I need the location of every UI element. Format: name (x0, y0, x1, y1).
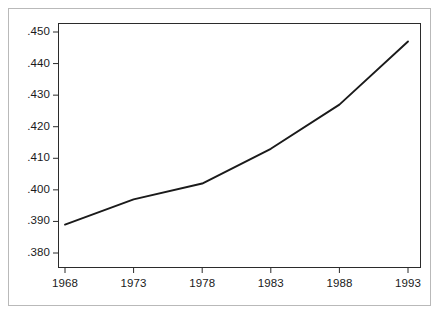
y-axis-tick-marks (53, 32, 58, 253)
x-tick-label: 1988 (316, 278, 362, 290)
x-tick-label: 1978 (179, 278, 225, 290)
y-tick-label: .450 (10, 26, 50, 38)
y-tick-label: .400 (10, 184, 50, 196)
x-tick-label: 1993 (385, 278, 431, 290)
data-series-line (65, 41, 408, 224)
x-tick-label: 1973 (111, 278, 157, 290)
y-tick-label: .380 (10, 247, 50, 259)
y-tick-label: .390 (10, 215, 50, 227)
y-tick-label: .420 (10, 121, 50, 133)
y-tick-label: .430 (10, 89, 50, 101)
y-tick-label: .440 (10, 58, 50, 70)
x-tick-label: 1968 (42, 278, 88, 290)
chart-figure: .450.440.430.420.410.400.390.380 1968197… (0, 0, 440, 315)
x-axis-tick-marks (65, 268, 408, 273)
chart-canvas (0, 0, 440, 315)
x-tick-label: 1983 (248, 278, 294, 290)
y-tick-label: .410 (10, 152, 50, 164)
